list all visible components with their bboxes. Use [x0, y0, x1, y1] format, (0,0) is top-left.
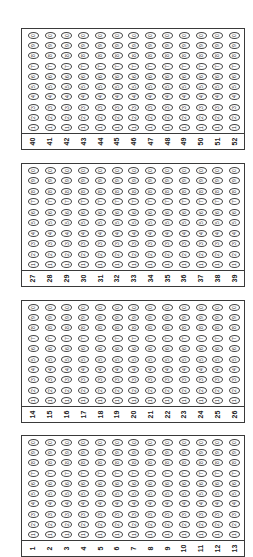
answer-bubble-q44-2[interactable]: 2 [95, 114, 106, 121]
answer-bubble-q47-5[interactable]: 5 [145, 83, 156, 90]
answer-bubble-q39-9[interactable]: 9 [229, 177, 240, 184]
answer-bubble-q42-1[interactable]: 1 [61, 124, 72, 131]
answer-bubble-q50-8[interactable]: 8 [196, 52, 207, 59]
answer-bubble-q18-2[interactable]: 2 [95, 387, 106, 394]
answer-bubble-q25-1[interactable]: 1 [212, 397, 223, 404]
answer-bubble-q8-0[interactable]: 0 [145, 439, 156, 446]
answer-bubble-q35-0[interactable]: 0 [162, 167, 173, 174]
answer-bubble-q17-7[interactable]: 7 [78, 335, 89, 342]
answer-bubble-q16-4[interactable]: 4 [61, 366, 72, 373]
answer-bubble-q3-3[interactable]: 3 [61, 511, 72, 518]
answer-bubble-q7-0[interactable]: 0 [128, 439, 139, 446]
answer-bubble-q36-0[interactable]: 0 [179, 167, 190, 174]
answer-bubble-q33-8[interactable]: 8 [128, 188, 139, 195]
answer-bubble-q45-9[interactable]: 9 [112, 42, 123, 49]
answer-bubble-q9-9[interactable]: 9 [162, 449, 173, 456]
answer-bubble-q6-8[interactable]: 8 [112, 459, 123, 466]
answer-bubble-q28-9[interactable]: 9 [45, 177, 56, 184]
answer-bubble-q7-9[interactable]: 9 [128, 449, 139, 456]
answer-bubble-q40-0[interactable]: 0 [28, 32, 39, 39]
answer-bubble-q5-8[interactable]: 8 [95, 459, 106, 466]
answer-bubble-q2-9[interactable]: 9 [45, 449, 56, 456]
answer-bubble-q37-6[interactable]: 6 [196, 209, 207, 216]
answer-bubble-q25-5[interactable]: 5 [212, 356, 223, 363]
answer-bubble-q31-0[interactable]: 0 [95, 167, 106, 174]
answer-bubble-q31-5[interactable]: 5 [95, 219, 106, 226]
answer-bubble-q33-7[interactable]: 7 [128, 198, 139, 205]
answer-bubble-q29-6[interactable]: 6 [61, 209, 72, 216]
answer-bubble-q7-3[interactable]: 3 [128, 511, 139, 518]
answer-bubble-q43-4[interactable]: 4 [78, 93, 89, 100]
answer-bubble-q10-6[interactable]: 6 [179, 480, 190, 487]
answer-bubble-q28-4[interactable]: 4 [45, 230, 56, 237]
answer-bubble-q41-0[interactable]: 0 [45, 32, 56, 39]
answer-bubble-q48-4[interactable]: 4 [162, 93, 173, 100]
answer-bubble-q4-2[interactable]: 2 [78, 521, 89, 528]
answer-bubble-q39-6[interactable]: 6 [229, 209, 240, 216]
answer-bubble-q38-1[interactable]: 1 [212, 261, 223, 268]
answer-bubble-q10-1[interactable]: 1 [179, 531, 190, 538]
answer-bubble-q30-5[interactable]: 5 [78, 219, 89, 226]
answer-bubble-q6-5[interactable]: 5 [112, 490, 123, 497]
answer-bubble-q8-4[interactable]: 4 [145, 500, 156, 507]
answer-bubble-q49-8[interactable]: 8 [179, 52, 190, 59]
answer-bubble-q40-3[interactable]: 3 [28, 104, 39, 111]
answer-bubble-q29-7[interactable]: 7 [61, 198, 72, 205]
answer-bubble-q24-0[interactable]: 0 [196, 304, 207, 311]
answer-bubble-q39-4[interactable]: 4 [229, 230, 240, 237]
answer-bubble-q5-5[interactable]: 5 [95, 490, 106, 497]
answer-bubble-q32-6[interactable]: 6 [112, 209, 123, 216]
answer-bubble-q46-6[interactable]: 6 [128, 73, 139, 80]
answer-bubble-q43-8[interactable]: 8 [78, 52, 89, 59]
answer-bubble-q42-6[interactable]: 6 [61, 73, 72, 80]
answer-bubble-q18-1[interactable]: 1 [95, 397, 106, 404]
answer-bubble-q37-3[interactable]: 3 [196, 240, 207, 247]
answer-bubble-q52-9[interactable]: 9 [229, 42, 240, 49]
answer-bubble-q30-1[interactable]: 1 [78, 261, 89, 268]
answer-bubble-q21-4[interactable]: 4 [145, 366, 156, 373]
answer-bubble-q26-9[interactable]: 9 [229, 314, 240, 321]
answer-bubble-q42-5[interactable]: 5 [61, 83, 72, 90]
answer-bubble-q38-3[interactable]: 3 [212, 240, 223, 247]
answer-bubble-q30-9[interactable]: 9 [78, 177, 89, 184]
answer-bubble-q2-2[interactable]: 2 [45, 521, 56, 528]
answer-bubble-q20-4[interactable]: 4 [128, 366, 139, 373]
answer-bubble-q31-9[interactable]: 9 [95, 177, 106, 184]
answer-bubble-q7-7[interactable]: 7 [128, 470, 139, 477]
answer-bubble-q40-4[interactable]: 4 [28, 93, 39, 100]
answer-bubble-q23-9[interactable]: 9 [179, 314, 190, 321]
answer-bubble-q38-0[interactable]: 0 [212, 167, 223, 174]
answer-bubble-q48-7[interactable]: 7 [162, 63, 173, 70]
answer-bubble-q39-3[interactable]: 3 [229, 240, 240, 247]
answer-bubble-q14-2[interactable]: 2 [28, 387, 39, 394]
answer-bubble-q29-4[interactable]: 4 [61, 230, 72, 237]
answer-bubble-q9-3[interactable]: 3 [162, 511, 173, 518]
answer-bubble-q27-9[interactable]: 9 [28, 177, 39, 184]
answer-bubble-q15-9[interactable]: 9 [45, 314, 56, 321]
answer-bubble-q12-7[interactable]: 7 [212, 470, 223, 477]
answer-bubble-q15-6[interactable]: 6 [45, 345, 56, 352]
answer-bubble-q31-6[interactable]: 6 [95, 209, 106, 216]
answer-bubble-q37-4[interactable]: 4 [196, 230, 207, 237]
answer-bubble-q44-0[interactable]: 0 [95, 32, 106, 39]
answer-bubble-q31-4[interactable]: 4 [95, 230, 106, 237]
answer-bubble-q1-6[interactable]: 6 [28, 480, 39, 487]
answer-bubble-q22-9[interactable]: 9 [162, 314, 173, 321]
answer-bubble-q34-9[interactable]: 9 [145, 177, 156, 184]
answer-bubble-q51-0[interactable]: 0 [212, 32, 223, 39]
answer-bubble-q2-6[interactable]: 6 [45, 480, 56, 487]
answer-bubble-q27-1[interactable]: 1 [28, 261, 39, 268]
answer-bubble-q13-6[interactable]: 6 [229, 480, 240, 487]
answer-bubble-q45-3[interactable]: 3 [112, 104, 123, 111]
answer-bubble-q28-1[interactable]: 1 [45, 261, 56, 268]
answer-bubble-q19-5[interactable]: 5 [112, 356, 123, 363]
answer-bubble-q38-7[interactable]: 7 [212, 198, 223, 205]
answer-bubble-q7-8[interactable]: 8 [128, 459, 139, 466]
answer-bubble-q38-2[interactable]: 2 [212, 251, 223, 258]
answer-bubble-q17-1[interactable]: 1 [78, 397, 89, 404]
answer-bubble-q51-7[interactable]: 7 [212, 63, 223, 70]
answer-bubble-q25-8[interactable]: 8 [212, 324, 223, 331]
answer-bubble-q4-8[interactable]: 8 [78, 459, 89, 466]
answer-bubble-q25-7[interactable]: 7 [212, 335, 223, 342]
answer-bubble-q13-5[interactable]: 5 [229, 490, 240, 497]
